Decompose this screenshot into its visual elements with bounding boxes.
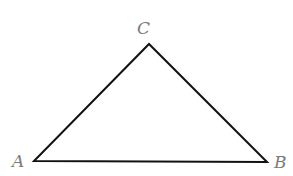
vertex-label-c: C <box>137 20 150 37</box>
vertex-label-a: A <box>12 153 24 170</box>
triangle-abc <box>34 44 267 162</box>
triangle-diagram: A B C <box>0 0 293 176</box>
vertex-label-b: B <box>274 154 287 171</box>
